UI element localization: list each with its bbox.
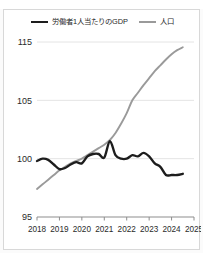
y-tick-label: 100 bbox=[17, 154, 32, 164]
x-tick-label: 2019 bbox=[50, 225, 69, 234]
chart-screenshot: 労働者1人当たりのGDP 人口 95100105115 201820192020… bbox=[0, 0, 203, 253]
x-tick-label: 2024 bbox=[162, 225, 181, 234]
x-axis bbox=[37, 217, 194, 221]
x-tick-label: 2018 bbox=[28, 225, 47, 234]
x-axis-labels: 20182019202020212022202320242025 bbox=[28, 225, 201, 234]
legend-item-gdp-per-worker: 労働者1人当たりのGDP bbox=[31, 18, 128, 25]
chart-legend: 労働者1人当たりのGDP 人口 bbox=[4, 18, 201, 25]
y-tick-label: 105 bbox=[17, 96, 32, 106]
x-tick-label: 2020 bbox=[73, 225, 92, 234]
chart-card: 労働者1人当たりのGDP 人口 95100105115 201820192020… bbox=[3, 9, 200, 250]
line-swatch-icon bbox=[31, 21, 48, 23]
legend-item-population: 人口 bbox=[139, 18, 174, 25]
line-chart-plot: 95100105115 2018201920202021202220232024… bbox=[4, 32, 201, 251]
line-swatch-icon bbox=[139, 21, 156, 23]
y-tick-label: 115 bbox=[18, 37, 32, 47]
cropped-title-strip bbox=[0, 0, 203, 9]
x-tick-label: 2021 bbox=[95, 225, 114, 234]
y-tick-label: 95 bbox=[22, 212, 32, 222]
data-series bbox=[37, 47, 183, 189]
gridlines bbox=[37, 42, 194, 159]
x-tick-label: 2023 bbox=[140, 225, 159, 234]
legend-label-population: 人口 bbox=[160, 18, 174, 25]
y-axis-labels: 95100105115 bbox=[17, 37, 32, 222]
x-tick-label: 2025 bbox=[185, 225, 201, 234]
legend-label-gdp-per-worker: 労働者1人当たりのGDP bbox=[52, 18, 128, 25]
x-tick-label: 2022 bbox=[118, 225, 137, 234]
